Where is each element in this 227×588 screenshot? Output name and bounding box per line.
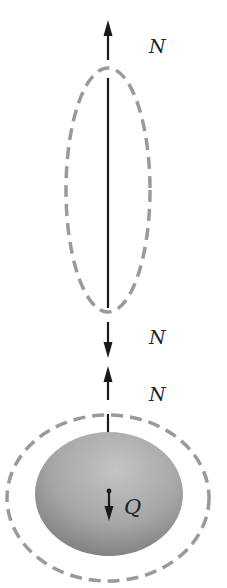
free-body-diagram: N N N Q xyxy=(0,0,227,588)
body-tension-arrow xyxy=(104,366,113,400)
weight-label: Q xyxy=(124,495,141,519)
top-tension-arrow xyxy=(104,20,113,60)
top-force-label: N xyxy=(148,35,167,57)
rope-bottom-tension-arrow xyxy=(104,322,113,358)
middle-force-up-label: N xyxy=(148,383,167,405)
middle-force-down-label: N xyxy=(148,326,167,348)
